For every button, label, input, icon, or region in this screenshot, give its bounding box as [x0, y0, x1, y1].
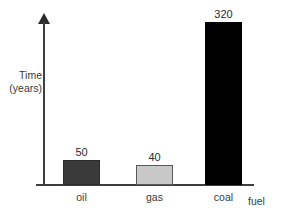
bar-value-label: 40 [124, 151, 185, 163]
bar-chart-figure: Time (years) fuel 50 oil 40 gas 320 coal [0, 0, 281, 212]
bar-value-label: 50 [51, 146, 112, 158]
bar-category-label: coal [193, 191, 254, 203]
plot-area: 50 oil 40 gas 320 coal [44, 8, 254, 185]
bar-rect [136, 165, 173, 185]
bar-rect [205, 22, 242, 185]
bar-category-label: gas [124, 191, 185, 203]
y-axis-title-line-2: (years) [0, 82, 42, 95]
y-axis-title: Time (years) [0, 69, 42, 94]
bar-rect [63, 160, 100, 185]
bar-value-label: 320 [193, 8, 254, 20]
bar-category-label: oil [51, 191, 112, 203]
y-axis-title-line-1: Time [0, 69, 42, 82]
